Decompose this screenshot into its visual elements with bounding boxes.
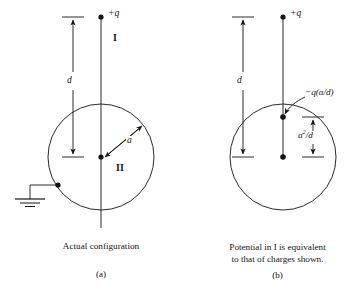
panel-letter-b: (b) (196, 270, 359, 280)
image-distance-label-b: a2/d (297, 131, 314, 140)
ground-wire-a (30, 185, 58, 199)
panel-a-graphics (15, 14, 154, 228)
region-label-outside-a: I (113, 33, 117, 43)
panel-b-graphics (230, 14, 336, 210)
caption-a: Actual configuration (16, 240, 186, 252)
distance-label-b: d (236, 76, 243, 86)
radius-arrow-a-reverse (105, 128, 140, 157)
sphere-center-dot-b (280, 154, 286, 160)
image-distance-tail: /d (306, 130, 313, 140)
panel-letter-a: (a) (16, 269, 186, 279)
distance-label-a: d (66, 76, 73, 86)
sphere-center-dot-a (98, 154, 103, 159)
radius-label-a: a (126, 136, 133, 146)
charge-label-a: +q (108, 9, 119, 19)
caption-b: Potential in I is equivalent to that of … (196, 241, 359, 266)
region-label-inside-a: II (116, 163, 124, 173)
charge-dot-b (280, 14, 285, 19)
image-charge-label-b: −q(a/d) (305, 88, 334, 97)
charge-dot-a (98, 14, 103, 19)
image-charge-dot-b (280, 114, 286, 120)
charge-label-b: +q (290, 9, 301, 19)
